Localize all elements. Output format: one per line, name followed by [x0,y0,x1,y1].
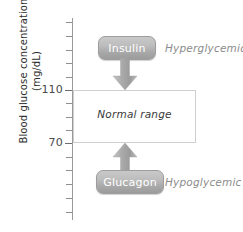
y-axis-tick [66,22,72,23]
y-axis-tick-70 [65,143,72,144]
y-axis-tick [66,212,72,213]
y-axis-tick [66,170,72,171]
y-axis-tick [66,77,72,78]
y-axis-tick [66,184,72,185]
glucagon-label: Glucagon [103,176,157,189]
y-axis-tick [66,130,72,131]
hyperglycemic-label: Hyperglycemic [165,42,243,54]
insulin-box: Insulin [98,36,156,60]
y-axis-tick [66,198,72,199]
y-axis-tick-110 [65,90,72,91]
hypoglycemic-label: Hypoglycemic [165,176,242,188]
y-axis-title-line2: (mg/dL) [30,0,43,151]
y-axis-tick [66,117,72,118]
blood-glucose-regulation-diagram: 110 70 Blood glucose concentration (mg/d… [0,0,243,232]
normal-range-label: Normal range [73,108,196,120]
arrow-down-icon [112,58,138,91]
glucagon-box: Glucagon [96,170,164,194]
insulin-label: Insulin [108,42,145,55]
y-axis-title-line1: Blood glucose concentration [17,0,30,151]
y-axis-tick [66,50,72,51]
y-axis-tick [66,103,72,104]
y-axis-tick [66,157,72,158]
y-axis-tick [66,36,72,37]
y-axis-tick [66,63,72,64]
y-axis-title: Blood glucose concentration (mg/dL) [17,0,43,151]
